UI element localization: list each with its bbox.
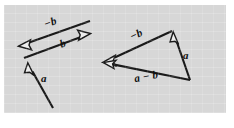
vector-diagram-canvas [0, 0, 234, 128]
vector-a-triangle-arrowhead [170, 32, 179, 45]
vector-b-left-arrowhead [78, 30, 91, 40]
vector-a-left [25, 63, 54, 108]
label-a-left: a [41, 73, 47, 84]
vector-subtraction-figure: −b b a −b a a − b [0, 0, 234, 128]
vector-minus-b-left-arrowhead [19, 40, 32, 50]
vector-b-left [24, 30, 91, 58]
vector-b-left-shaft [24, 37, 81, 58]
label-a-triangle: a [183, 50, 189, 61]
vector-a-left-arrowhead [25, 63, 35, 76]
